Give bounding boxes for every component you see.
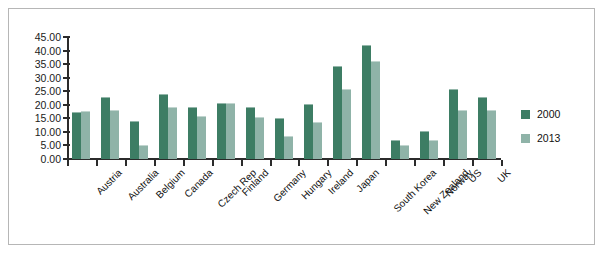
legend-swatch-2000 (521, 110, 530, 119)
bar-2013 (110, 110, 119, 159)
bar-group (303, 37, 323, 159)
bar-2000 (420, 131, 429, 159)
bar-group (332, 37, 352, 159)
bar-highlight (197, 116, 206, 117)
bar-highlight (101, 97, 110, 98)
bar-highlight (371, 61, 380, 62)
x-tick-label: Austria (95, 167, 125, 197)
bar-2013 (139, 145, 148, 159)
bar-2000 (246, 107, 255, 159)
bar-highlight (188, 107, 197, 108)
bar-group (187, 37, 207, 159)
bar-2000 (217, 103, 226, 159)
x-tick-label: Japan (354, 167, 381, 194)
y-tick-label: 35.00 (15, 59, 61, 69)
bar-highlight (72, 112, 81, 113)
x-tick-mark (472, 160, 474, 166)
y-tick-label: 40.00 (15, 46, 61, 56)
bar-highlight (391, 140, 400, 141)
bar-highlight (304, 104, 313, 105)
x-tick-mark (125, 160, 127, 166)
bar-group (390, 37, 410, 159)
x-tick-label: UK (495, 167, 513, 185)
bar-highlight (217, 103, 226, 104)
y-tick-mark (63, 131, 70, 133)
y-tick-mark (63, 36, 70, 38)
bar-group (71, 37, 91, 159)
x-tick-label: Australia (126, 167, 161, 202)
bar-2013 (429, 140, 438, 159)
y-tick-mark (63, 90, 70, 92)
bar-highlight (110, 110, 119, 111)
bar-2013 (284, 136, 293, 159)
y-tick-label: 15.00 (15, 113, 61, 123)
bar-group (245, 37, 265, 159)
bar-highlight (400, 145, 409, 146)
bar-highlight (130, 121, 139, 122)
bar-2000 (478, 97, 487, 159)
bar-2013 (313, 122, 322, 159)
bar-highlight (458, 110, 467, 111)
y-tick-label: 0.00 (15, 154, 61, 164)
bar-group (448, 37, 468, 159)
x-tick-mark (67, 160, 69, 166)
bar-highlight (246, 107, 255, 108)
bar-groups (67, 37, 501, 159)
y-tick-label: 25.00 (15, 86, 61, 96)
bar-highlight (81, 111, 90, 112)
legend-item[interactable]: 2013 (521, 133, 583, 144)
bar-highlight (333, 66, 342, 67)
bar-2000 (304, 104, 313, 159)
bar-highlight (139, 145, 148, 146)
bar-highlight (487, 110, 496, 111)
y-tick-label: 45.00 (15, 32, 61, 42)
bar-2013 (226, 103, 235, 159)
y-tick-mark (63, 117, 70, 119)
x-tick-label: Canada (183, 167, 216, 200)
bar-2013 (255, 117, 264, 159)
plot-area: 45.0040.0035.0030.0025.0020.0015.0010.00… (9, 9, 596, 246)
x-tick-mark (385, 160, 387, 166)
x-tick-mark (327, 160, 329, 166)
bar-2013 (197, 116, 206, 159)
bar-highlight (255, 117, 264, 118)
y-tick-label: 20.00 (15, 100, 61, 110)
x-tick-mark (298, 160, 300, 166)
bar-2000 (362, 45, 371, 159)
bar-highlight (342, 89, 351, 90)
bar-2000 (275, 118, 284, 159)
bar-highlight (226, 103, 235, 104)
bar-2000 (188, 107, 197, 159)
bar-2013 (400, 145, 409, 159)
x-tick-mark (270, 160, 272, 166)
x-tick-mark (212, 160, 214, 166)
x-tick-mark (154, 160, 156, 166)
bar-2013 (168, 107, 177, 159)
bar-2000 (130, 121, 139, 159)
x-tick-mark (356, 160, 358, 166)
bar-2000 (391, 140, 400, 159)
bar-2000 (101, 97, 110, 159)
bar-group (361, 37, 381, 159)
bar-group (216, 37, 236, 159)
bar-2013 (81, 111, 90, 159)
legend-item[interactable]: 2000 (521, 109, 583, 120)
x-tick-mark (241, 160, 243, 166)
bar-highlight (313, 122, 322, 123)
y-tick-label: 30.00 (15, 73, 61, 83)
bar-group (100, 37, 120, 159)
bar-highlight (362, 45, 371, 46)
bar-2000 (72, 112, 81, 159)
x-tick-label: Germany (271, 167, 308, 204)
x-tick-mark (183, 160, 185, 166)
bar-2000 (159, 94, 168, 159)
x-tick-mark (443, 160, 445, 166)
bar-2013 (487, 110, 496, 159)
bar-highlight (449, 89, 458, 90)
bar-group (158, 37, 178, 159)
bar-group (274, 37, 294, 159)
bar-highlight (159, 94, 168, 95)
bar-2013 (371, 61, 380, 159)
bar-group (419, 37, 439, 159)
y-tick-label: 5.00 (15, 140, 61, 150)
